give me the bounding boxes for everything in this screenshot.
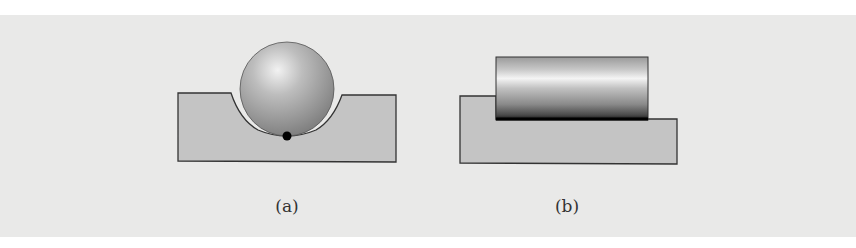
sphere (240, 42, 334, 136)
panel-b-label: (b) (555, 196, 579, 216)
cylinder (496, 57, 648, 120)
panel-a-label: (a) (275, 196, 298, 216)
point-contact-dot (283, 132, 292, 141)
panel-b (460, 57, 677, 164)
panel-a (178, 42, 396, 162)
figure-canvas (0, 0, 856, 248)
